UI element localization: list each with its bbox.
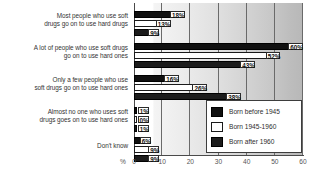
bar [134,61,255,68]
category-label-line: Don't know [97,142,128,150]
category-label-line: go on to use hard ones [34,52,128,60]
x-axis-tick-label: 50 [271,158,278,165]
bar-chart: Most people who use softdrugs go on to u… [0,0,311,183]
bar-value-label: 1% [138,125,149,132]
legend-item-label: Born 1945-1960 [229,123,276,130]
bar-value-label: 9% [148,146,159,153]
legend-item-label: Born after 1960 [229,138,274,145]
bar-value-label: 6% [140,137,151,144]
x-axis: % 0102030405060 [0,158,311,172]
category-label: Only a few people who usesoft drugs go o… [34,76,128,92]
legend-item-born-before-1945: Born before 1945 [211,104,297,119]
bar-value-label: 1% [138,107,149,114]
bar [134,116,137,123]
category-label-line: drugs goes on to use hard ones [40,116,128,124]
category-label: A lot of people who use soft drugsgo on … [34,44,128,60]
bar-value-label: 43% [240,61,255,68]
category-label: Almost no one who uses softdrugs goes on… [40,108,128,124]
bar-value-label: 9% [148,29,159,36]
bar [134,43,303,50]
gridline [302,3,303,156]
x-axis-unit-label: % [120,158,126,165]
legend-item-born-after-1960: Born after 1960 [211,134,297,149]
category-label: Most people who use softdrugs go on to u… [44,12,128,28]
legend-swatch-icon [211,107,223,117]
category-label-line: A lot of people who use soft drugs [34,44,128,52]
gridline [189,3,190,156]
x-axis-tick-label: 0 [132,158,136,165]
bar-value-label: 0% [138,116,149,123]
category-label-column: Most people who use softdrugs go on to u… [0,0,131,156]
category-label-line: Only a few people who use [34,76,128,84]
bar [134,93,241,100]
bar-value-label: 38% [226,93,241,100]
bar-value-label: 52% [266,52,281,59]
bar-value-label: 16% [164,75,179,82]
legend-swatch-icon [211,137,223,147]
x-axis-tick-label: 60 [299,158,306,165]
bar-value-label: 13% [156,20,171,27]
legend-swatch-icon [211,122,223,132]
bar-value-label: 18% [170,11,185,18]
bar-value-label: 60% [288,43,303,50]
bar-value-label: 26% [192,84,207,91]
x-axis-line [134,155,304,156]
x-axis-tick-label: 10 [158,158,165,165]
bar [134,125,137,132]
x-axis-tick-label: 20 [187,158,194,165]
category-label-line: drugs go on to use hard drugs [44,20,128,28]
legend-item-label: Born before 1945 [229,108,280,115]
legend-item-born-1945-1960: Born 1945-1960 [211,119,297,134]
bar [134,107,137,114]
category-label-line: soft drugs go on to use hard ones [34,84,128,92]
x-axis-tick-label: 40 [243,158,250,165]
category-label-line: Almost no one who uses soft [40,108,128,116]
category-label-line: Most people who use soft [44,12,128,20]
bar [134,52,280,59]
category-label: Don't know [97,142,128,150]
legend: Born before 1945 Born 1945-1960 Born aft… [206,100,302,153]
x-axis-tick-label: 30 [215,158,222,165]
